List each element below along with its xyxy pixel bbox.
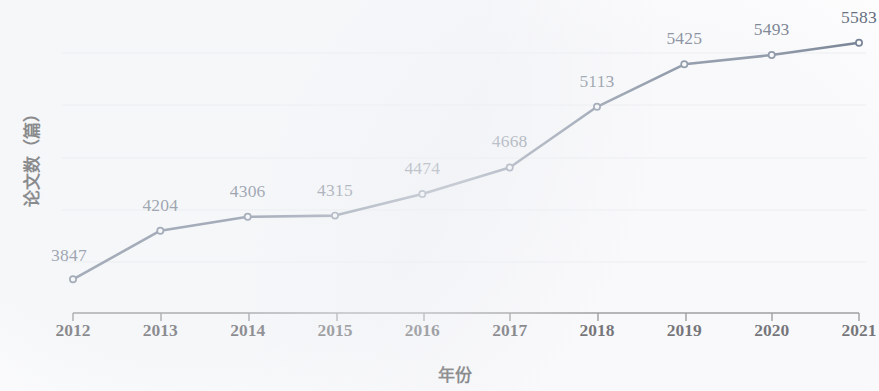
data-point-label-2017: 4668	[492, 131, 528, 152]
x-tick-label-2012: 2012	[56, 320, 91, 341]
data-point-marker	[507, 164, 513, 170]
x-tick-label-2015: 2015	[318, 320, 353, 341]
data-point-marker	[245, 214, 251, 220]
x-axis	[73, 313, 859, 321]
data-point-marker	[332, 213, 338, 219]
gridlines	[62, 53, 866, 262]
x-tick-label-2018: 2018	[580, 320, 615, 341]
x-tick-label-2017: 2017	[492, 320, 527, 341]
data-markers	[70, 40, 862, 283]
data-point-marker	[769, 52, 775, 58]
data-point-label-2021: 5583	[841, 7, 877, 28]
data-point-label-2019: 5425	[666, 28, 702, 49]
data-line	[73, 43, 859, 279]
data-point-label-2013: 4204	[142, 195, 178, 216]
data-point-marker	[594, 104, 600, 110]
y-axis-title: 论文数（篇）	[18, 90, 43, 222]
data-point-label-2020: 5493	[754, 19, 790, 40]
x-tick-label-2014: 2014	[230, 320, 265, 341]
data-point-label-2018: 5113	[579, 71, 614, 92]
chart-figure: 论文数（篇） 年份 201220132014201520162017201820…	[0, 0, 879, 391]
data-point-label-2012: 3847	[51, 245, 87, 266]
data-point-marker	[681, 61, 687, 67]
data-point-label-2016: 4474	[404, 158, 440, 179]
data-point-marker	[70, 276, 76, 282]
x-tick-label-2021: 2021	[842, 320, 877, 341]
data-point-label-2014: 4306	[230, 181, 266, 202]
data-point-label-2015: 4315	[317, 180, 353, 201]
x-tick-label-2016: 2016	[405, 320, 440, 341]
x-tick-label-2019: 2019	[667, 320, 702, 341]
data-point-marker	[419, 191, 425, 197]
x-tick-label-2013: 2013	[143, 320, 178, 341]
x-tick-label-2020: 2020	[754, 320, 789, 341]
x-axis-title: 年份	[0, 361, 879, 386]
data-point-marker	[856, 40, 862, 46]
data-point-marker	[157, 228, 163, 234]
